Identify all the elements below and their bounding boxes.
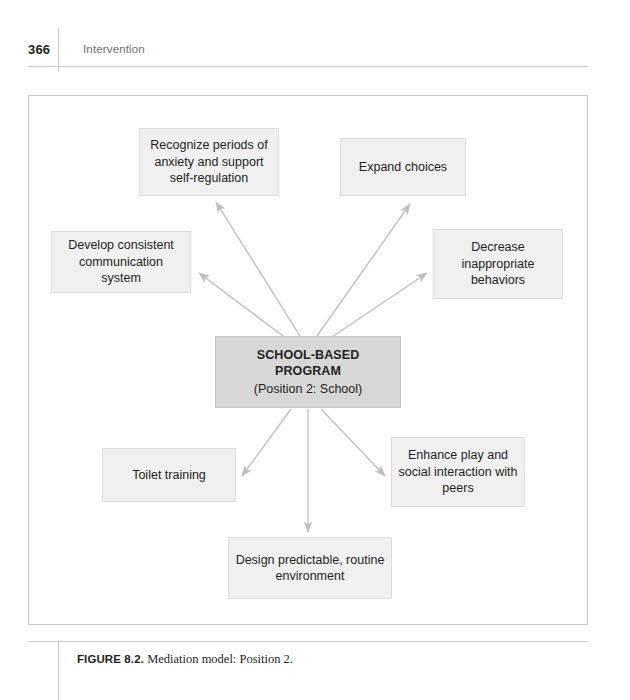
arrow-center-to-toilet xyxy=(242,409,291,476)
node-toilet-training: Toilet training xyxy=(102,448,236,502)
node-school-based-program: SCHOOL-BASED PROGRAM (Position 2: School… xyxy=(215,336,401,408)
center-node-subtitle: (Position 2: School) xyxy=(254,381,362,398)
center-node-title: SCHOOL-BASED PROGRAM xyxy=(222,347,394,380)
figure-caption-text: Mediation model: Position 2. xyxy=(147,652,293,666)
node-develop-consistent-communication-system: Develop consistent communication system xyxy=(51,231,191,293)
running-head-title: Intervention xyxy=(83,43,145,55)
page-number: 366 xyxy=(28,42,50,57)
figure-frame: Recognize periods of anxiety and support… xyxy=(28,95,588,625)
caption-vertical-divider xyxy=(58,641,59,700)
figure-caption: FIGURE 8.2. Mediation model: Position 2. xyxy=(77,652,577,667)
node-decrease-inappropriate-behaviors: Decrease inappropriate behaviors xyxy=(433,229,563,299)
arrow-center-to-develop xyxy=(199,273,287,339)
arrow-center-to-decrease xyxy=(329,273,427,339)
figure-canvas: Recognize periods of anxiety and support… xyxy=(29,96,587,624)
node-enhance-play-and-social-interaction: Enhance play and social interaction with… xyxy=(391,437,525,507)
node-recognize-periods-of-anxiety: Recognize periods of anxiety and support… xyxy=(139,128,279,196)
figure-caption-label: FIGURE 8.2. xyxy=(77,653,144,665)
page-header: 366 Intervention xyxy=(0,0,630,72)
caption-horizontal-rule xyxy=(28,641,588,642)
node-design-predictable-routine-environment: Design predictable, routine environment xyxy=(228,537,392,599)
arrow-center-to-recognize xyxy=(216,202,300,336)
node-expand-choices: Expand choices xyxy=(340,138,466,196)
arrow-center-to-enhance xyxy=(321,409,385,476)
header-horizontal-rule xyxy=(28,66,588,67)
arrow-center-to-expand xyxy=(317,204,410,336)
